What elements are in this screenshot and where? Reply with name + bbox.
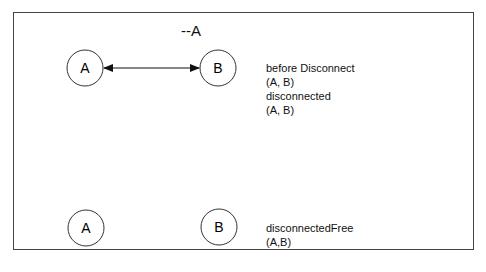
svg-text:B: B [214, 219, 223, 235]
bottom-annotation-1: disconnectedFree [266, 222, 353, 235]
top-node-b: B [200, 50, 236, 86]
top-annotation-3: disconnected [266, 90, 331, 103]
bottom-node-a: A [68, 210, 104, 246]
svg-text:A: A [80, 60, 90, 76]
top-annotation-1: before Disconnect [266, 62, 355, 75]
svg-text:B: B [213, 60, 222, 76]
bottom-annotation-2: (A,B) [266, 236, 291, 249]
top-annotation-4: (A, B) [266, 104, 294, 117]
top-annotation-2: (A, B) [266, 76, 294, 89]
bottom-node-b: B [201, 209, 237, 245]
diagram-canvas: A B A B [0, 0, 486, 272]
svg-text:A: A [81, 220, 91, 236]
top-node-a: A [67, 50, 103, 86]
